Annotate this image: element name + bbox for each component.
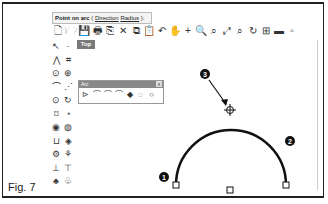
drawing-canvas: 1 2 3 xyxy=(0,0,328,204)
svg-text:1: 1 xyxy=(162,174,166,181)
callout-1: 1 xyxy=(159,172,169,182)
svg-text:2: 2 xyxy=(288,138,292,145)
svg-text:3: 3 xyxy=(203,71,207,78)
callout-2: 2 xyxy=(285,136,295,146)
figure-caption: Fig. 7 xyxy=(8,181,36,193)
crosshair-point xyxy=(224,104,236,116)
callout-3: 3 xyxy=(200,69,210,79)
arc-drawing xyxy=(173,80,289,193)
